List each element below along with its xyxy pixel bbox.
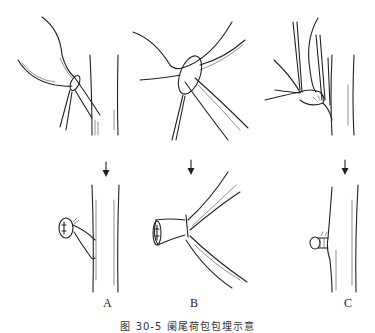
down-arrow-icon (342, 160, 349, 175)
panel-a-top (18, 17, 118, 135)
down-arrow-icon (103, 162, 110, 177)
panel-c-bottom (310, 185, 358, 292)
panel-label-a: A (103, 296, 112, 311)
figure-caption: 图 30-5 阑尾荷包包埋示意 (0, 318, 375, 333)
panel-a-bottom (59, 185, 119, 292)
panel-b-bottom (153, 172, 247, 288)
down-arrow-icon (188, 160, 195, 175)
panel-c-top (265, 18, 354, 135)
panel-label-b: B (190, 296, 198, 311)
panel-b-top (133, 22, 248, 140)
panel-label-c: C (344, 296, 352, 311)
